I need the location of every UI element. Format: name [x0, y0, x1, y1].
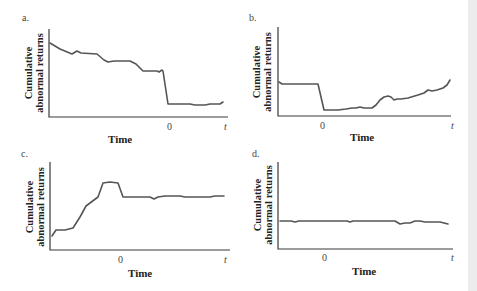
svg-text:abnormal returns: abnormal returns	[34, 33, 45, 112]
x-axis-label-c: Time	[128, 267, 152, 279]
panel-c: c. Cumulative abnormal returns 0 t Time	[21, 148, 230, 279]
tick-t-d: t	[451, 252, 454, 263]
panel-a: a. Cumulative abnormal returns 0 t Time	[22, 12, 228, 145]
svg-text:abnormal returns: abnormal returns	[35, 167, 46, 246]
y-axis-label-d: Cumulative abnormal returns	[252, 165, 274, 244]
svg-text:abnormal returns: abnormal returns	[262, 32, 273, 111]
y-axis-label-a: Cumulative abnormal returns	[23, 33, 45, 112]
svg-text:Cumulative: Cumulative	[251, 45, 262, 98]
tick-zero-c: 0	[118, 254, 123, 265]
tick-t-a: t	[224, 121, 227, 132]
x-axis-label-a: Time	[108, 133, 132, 145]
panel-b: b. Cumulative abnormal returns 0 t Time	[249, 12, 454, 143]
y-axis-label-c: Cumulative abnormal returns	[24, 167, 46, 246]
panel-label-b: b.	[249, 12, 257, 23]
tick-zero-b: 0	[320, 120, 325, 131]
y-axis-label-b: Cumulative abnormal returns	[251, 32, 273, 111]
axes-c	[50, 162, 230, 250]
svg-text:Cumulative: Cumulative	[23, 46, 34, 99]
svg-text:Cumulative: Cumulative	[24, 180, 35, 233]
tick-zero-a: 0	[167, 121, 172, 132]
x-axis-label-b: Time	[350, 131, 374, 143]
svg-text:Cumulative: Cumulative	[252, 178, 263, 231]
axes-d	[278, 162, 453, 249]
x-axis-label-d: Time	[352, 265, 376, 277]
curve-b	[279, 80, 450, 110]
curve-a	[50, 43, 223, 105]
panel-label-a: a.	[22, 12, 29, 23]
chart-figure: a. Cumulative abnormal returns 0 t Time …	[0, 0, 477, 291]
axes-b	[278, 27, 451, 116]
panel-label-c: c.	[21, 148, 28, 159]
curve-d	[280, 221, 448, 224]
tick-zero-d: 0	[322, 252, 327, 263]
tick-t-c: t	[224, 254, 227, 265]
curve-c	[52, 182, 224, 236]
panel-d: d. Cumulative abnormal returns 0 t Time	[252, 148, 454, 277]
panel-label-d: d.	[252, 148, 260, 159]
axes-a	[49, 29, 228, 117]
tick-t-b: t	[451, 120, 454, 131]
svg-text:abnormal returns: abnormal returns	[263, 165, 274, 244]
